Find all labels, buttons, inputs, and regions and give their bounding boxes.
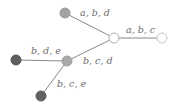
node-left	[11, 55, 21, 65]
tree-diagram: a, b, da, b, cb, c, db, d, eb, c, e	[0, 0, 177, 106]
edge-label: a, b, d	[80, 7, 110, 18]
node-bottom	[36, 91, 46, 101]
edge-label: b, d, e	[31, 45, 61, 56]
edge-label: b, c, e	[57, 78, 86, 89]
node-middle	[62, 56, 72, 66]
edge-label: b, c, d	[83, 55, 113, 66]
node-right	[157, 33, 167, 43]
node-center	[109, 33, 119, 43]
node-top	[60, 8, 70, 18]
edge-middle-left	[16, 60, 67, 61]
edge-label: a, b, c	[126, 24, 156, 35]
